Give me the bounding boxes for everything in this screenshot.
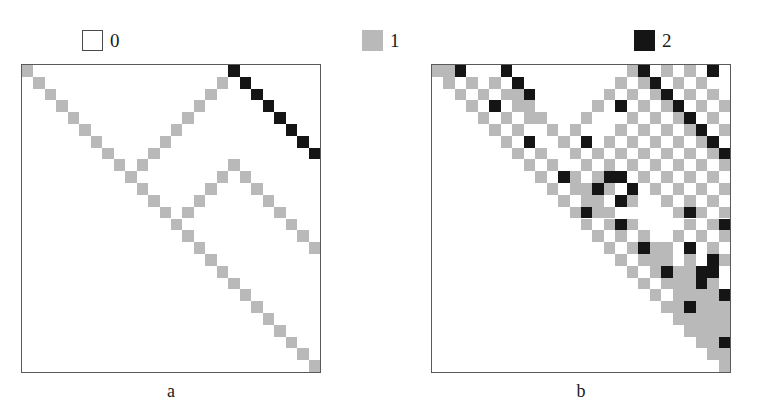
- matrix-cell: [707, 136, 718, 148]
- legend-label-2: 2: [662, 31, 672, 50]
- matrix-cell: [638, 171, 649, 183]
- matrix-cell: [592, 100, 603, 112]
- matrix-cell: [707, 148, 718, 160]
- matrix-cell: [684, 301, 695, 313]
- matrix-cell: [661, 89, 672, 101]
- matrix-cell: [478, 112, 489, 124]
- matrix-cell: [309, 360, 320, 372]
- matrix-cell: [274, 112, 285, 124]
- matrix-cell: [684, 289, 695, 301]
- legend-label-1: 1: [390, 31, 400, 50]
- matrix-cell: [286, 219, 297, 231]
- matrix-cell: [696, 325, 707, 337]
- matrix-cell: [661, 266, 672, 278]
- matrix-cell: [661, 171, 672, 183]
- matrix-cell: [673, 112, 684, 124]
- matrix-cell: [638, 77, 649, 89]
- matrix-cell: [684, 65, 695, 77]
- legend-item-0: 0: [82, 30, 120, 51]
- matrix-cell: [650, 136, 661, 148]
- matrix-cell: [638, 242, 649, 254]
- matrix-cell: [650, 183, 661, 195]
- matrix-cell: [604, 207, 615, 219]
- matrix-cell: [707, 348, 718, 360]
- matrix-cell: [673, 159, 684, 171]
- matrix-cell: [661, 148, 672, 160]
- matrix-cell: [707, 337, 718, 349]
- matrix-cell: [171, 124, 182, 136]
- outlined-square-icon: [82, 30, 103, 51]
- matrix-cell: [251, 301, 262, 313]
- matrix-cell: [638, 278, 649, 290]
- matrix-cell: [604, 242, 615, 254]
- matrix-cell: [627, 159, 638, 171]
- matrix-cell: [297, 136, 308, 148]
- matrix-cell: [719, 124, 730, 136]
- matrix-cell: [535, 171, 546, 183]
- matrix-cell: [125, 171, 136, 183]
- matrix-cell: [696, 278, 707, 290]
- matrix-cell: [673, 136, 684, 148]
- matrix-cell: [455, 89, 466, 101]
- matrix-cell: [592, 195, 603, 207]
- matrix-cell: [707, 289, 718, 301]
- matrix-cell: [684, 278, 695, 290]
- matrix-cell: [524, 159, 535, 171]
- matrix-cell: [615, 77, 626, 89]
- matrix-cell: [661, 301, 672, 313]
- matrix-cell: [581, 136, 592, 148]
- matrix-cell: [638, 254, 649, 266]
- matrix-cell: [650, 289, 661, 301]
- matrix-cell: [297, 348, 308, 360]
- matrix-cell: [524, 89, 535, 101]
- matrix-cell: [707, 89, 718, 101]
- matrix-cell: [615, 124, 626, 136]
- matrix-cell: [684, 219, 695, 231]
- matrix-cell: [91, 136, 102, 148]
- matrix-cell: [673, 100, 684, 112]
- matrix-cell: [478, 89, 489, 101]
- matrix-cell: [263, 100, 274, 112]
- black-square-icon: [634, 30, 655, 51]
- matrix-cell: [719, 360, 730, 372]
- matrix-cell: [696, 313, 707, 325]
- matrix-panel-b: b: [431, 64, 731, 401]
- matrix-cell: [650, 112, 661, 124]
- matrix-cell: [604, 171, 615, 183]
- matrix-cell: [719, 148, 730, 160]
- matrix-cell: [558, 195, 569, 207]
- matrix-cell: [570, 171, 581, 183]
- matrix-cell: [696, 77, 707, 89]
- matrix-cell: [604, 219, 615, 231]
- matrix-cell: [719, 219, 730, 231]
- matrix-cell: [194, 242, 205, 254]
- matrix-cell: [205, 183, 216, 195]
- matrix-cell: [696, 337, 707, 349]
- matrix-cell: [240, 77, 251, 89]
- matrix-cell: [102, 148, 113, 160]
- matrix-cell: [148, 195, 159, 207]
- matrix-cell: [604, 89, 615, 101]
- matrix-cell: [627, 183, 638, 195]
- matrix-cell: [696, 100, 707, 112]
- matrix-cell: [615, 100, 626, 112]
- matrix-cell: [524, 100, 535, 112]
- matrix-cell: [251, 89, 262, 101]
- matrix-cell: [309, 148, 320, 160]
- matrix-cell: [274, 207, 285, 219]
- matrix-cell: [592, 230, 603, 242]
- matrix-cell: [512, 100, 523, 112]
- matrix-cell: [615, 171, 626, 183]
- matrix-cell: [696, 183, 707, 195]
- matrix-cell: [466, 77, 477, 89]
- matrix-cell: [182, 230, 193, 242]
- matrix-cell: [696, 230, 707, 242]
- matrix-cell: [443, 77, 454, 89]
- matrix-cell: [638, 148, 649, 160]
- matrix-cell: [627, 266, 638, 278]
- matrix-cell: [673, 207, 684, 219]
- matrix-cell: [22, 65, 33, 77]
- matrix-cell: [524, 112, 535, 124]
- matrix-cell: [696, 301, 707, 313]
- matrix-cell: [592, 183, 603, 195]
